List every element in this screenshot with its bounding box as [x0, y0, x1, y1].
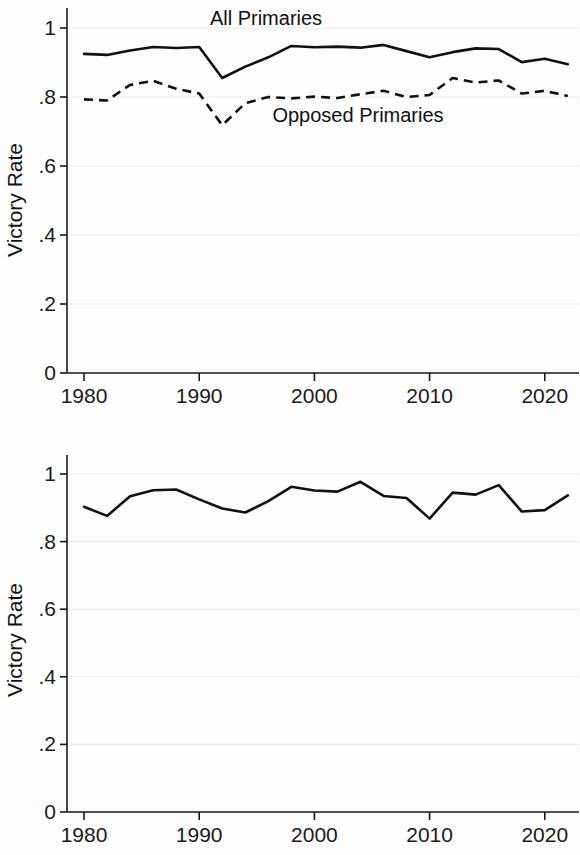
y-tick-label-bottom-2: .4	[38, 665, 56, 688]
x-tick-label-top-1: 1990	[176, 384, 223, 407]
y-tick-label-bottom-3: .6	[38, 597, 56, 620]
chart-svg-top: 0.2.4.6.81 19801990200020102020 Victory …	[0, 0, 580, 420]
y-tick-label-top-1: .2	[38, 292, 56, 315]
y-tick-label-bottom-4: .8	[38, 530, 56, 553]
y-tick-label-bottom-5: 1	[44, 462, 56, 485]
axes-top	[67, 8, 579, 373]
x-tick-label-top-4: 2020	[521, 384, 568, 407]
annotation-all-primaries: All Primaries	[210, 7, 322, 29]
x-tick-label-bottom-1: 1990	[176, 823, 223, 846]
series-line-bottom-0	[84, 482, 568, 519]
y-ticks-bottom: 0.2.4.6.81	[38, 462, 67, 823]
y-tick-label-top-0: 0	[44, 361, 56, 384]
chart-panel-bottom: 0.2.4.6.81 19801990200020102020 Victory …	[0, 420, 580, 855]
annotation-opposed-primaries: Opposed Primaries	[272, 104, 443, 126]
y-tick-label-bottom-1: .2	[38, 732, 56, 755]
x-tick-label-top-2: 2000	[291, 384, 338, 407]
y-tick-label-top-2: .4	[38, 223, 56, 246]
y-tick-label-top-3: .6	[38, 154, 56, 177]
x-ticks-bottom: 19801990200020102020	[61, 812, 569, 846]
y-tick-label-top-5: 1	[44, 16, 56, 39]
x-tick-label-top-3: 2010	[406, 384, 453, 407]
x-tick-label-top-0: 1980	[61, 384, 108, 407]
x-tick-label-bottom-3: 2010	[406, 823, 453, 846]
gridlines-top	[67, 28, 579, 373]
series-group-bottom	[84, 482, 568, 519]
chart-svg-bottom: 0.2.4.6.81 19801990200020102020 Victory …	[0, 420, 580, 855]
y-tick-label-bottom-0: 0	[44, 800, 56, 823]
y-ticks-top: 0.2.4.6.81	[38, 16, 67, 384]
x-ticks-top: 19801990200020102020	[61, 373, 569, 407]
y-axis-title-bottom: Victory Rate	[3, 583, 26, 697]
gridlines-bottom	[67, 474, 579, 812]
series-line-top-0	[84, 45, 568, 78]
y-axis-title-top: Victory Rate	[3, 143, 26, 257]
x-tick-label-bottom-2: 2000	[291, 823, 338, 846]
y-tick-label-top-4: .8	[38, 85, 56, 108]
axes-bottom	[67, 455, 579, 812]
chart-panel-top: 0.2.4.6.81 19801990200020102020 Victory …	[0, 0, 580, 420]
figure-container: 0.2.4.6.81 19801990200020102020 Victory …	[0, 0, 580, 855]
x-tick-label-bottom-4: 2020	[521, 823, 568, 846]
x-tick-label-bottom-0: 1980	[61, 823, 108, 846]
